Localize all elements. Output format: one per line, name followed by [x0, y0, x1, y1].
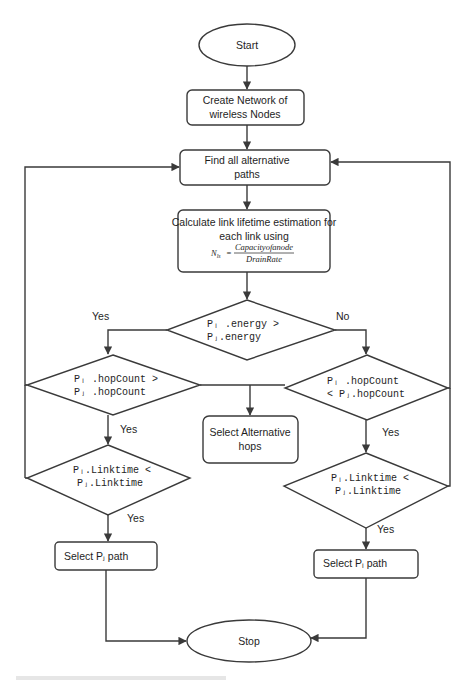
energy-yes-label: Yes	[92, 310, 109, 322]
link-right-decision: Pᵢ.Linktime < Pⱼ.Linktime	[284, 453, 448, 528]
formula-denominator: DrainRate	[245, 254, 282, 264]
energy-decision-line-1: Pᵢ .energy >	[207, 319, 279, 330]
hop-right-line-1: Pᵢ .hopCount	[327, 376, 399, 387]
select-alt-hops-process: Select Alternative hops	[203, 416, 298, 463]
edge-left-feedback	[25, 167, 179, 385]
select-pj-process: Select Pⱼ path	[55, 542, 157, 570]
energy-decision: Pᵢ .energy > Pⱼ.energy	[167, 300, 335, 360]
start-label: Start	[236, 39, 258, 51]
stop-label: Stop	[238, 635, 260, 647]
hop-left-line-1: Pᵢ .hopCount >	[74, 374, 158, 385]
hop-left-decision: Pᵢ .hopCount > Pⱼ .hopCount	[27, 355, 200, 415]
edge-link-right-no	[448, 388, 450, 486]
edge-energy-no	[335, 330, 366, 354]
link-right-line-2: Pⱼ.Linktime	[335, 486, 401, 497]
flowchart-canvas: Start Create Network of wireless Nodes F…	[0, 0, 471, 680]
hop-left-yes-label: Yes	[120, 423, 137, 435]
link-right-yes-label: Yes	[377, 523, 394, 535]
find-paths-line-1: Find all alternative	[204, 154, 289, 166]
link-left-line-2: Pⱼ.Linktime	[77, 478, 143, 489]
find-paths-line-2: paths	[234, 168, 260, 180]
edge-right-feedback	[331, 162, 450, 388]
edge-select-pi-to-stop	[311, 578, 366, 638]
hop-right-decision: Pᵢ .hopCount < Pⱼ.hopCount	[285, 355, 448, 420]
select-pi-label: Select Pᵢ path	[323, 557, 387, 569]
energy-decision-line-2: Pⱼ.energy	[207, 332, 261, 343]
energy-no-label: No	[336, 310, 350, 322]
link-left-decision: Pᵢ.Linktime < Pⱼ.Linktime	[27, 445, 190, 515]
hop-left-line-2: Pⱼ .hopCount	[74, 387, 146, 398]
create-network-line-2: wireless Nodes	[208, 108, 280, 120]
select-pi-process: Select Pᵢ path	[314, 550, 418, 578]
formula-numerator: Capacityofanode	[235, 242, 293, 252]
find-paths-process: Find all alternative paths	[180, 150, 330, 185]
edge-energy-yes	[108, 330, 167, 354]
calc-lifetime-process: Calculate link lifetime estimation for e…	[172, 210, 337, 272]
select-pj-label: Select Pⱼ path	[64, 550, 128, 562]
calc-lifetime-line-2: each link using	[219, 230, 289, 242]
start-terminator: Start	[199, 24, 295, 66]
hop-right-yes-label: Yes	[382, 426, 399, 438]
select-alt-hops-line-1: Select Alternative	[209, 426, 290, 438]
cropped-caption	[16, 676, 226, 680]
stop-terminator: Stop	[187, 620, 311, 662]
hop-right-line-2: < Pⱼ.hopCount	[327, 389, 405, 400]
create-network-process: Create Network of wireless Nodes	[187, 90, 304, 125]
create-network-line-1: Create Network of	[203, 94, 288, 106]
calc-lifetime-line-1: Calculate link lifetime estimation for	[172, 216, 337, 228]
edge-select-pj-to-stop	[106, 570, 186, 641]
link-left-line-1: Pᵢ.Linktime <	[73, 465, 151, 476]
select-alt-hops-line-2: hops	[239, 440, 262, 452]
link-right-line-1: Pᵢ.Linktime <	[331, 473, 409, 484]
formula-equals: =	[226, 248, 232, 258]
link-left-yes-label: Yes	[127, 512, 144, 524]
formula-lhs-subscript: ls	[217, 253, 222, 259]
